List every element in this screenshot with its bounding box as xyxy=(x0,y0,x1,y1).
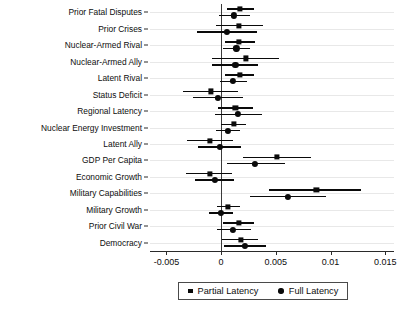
point-estimate-marker xyxy=(211,177,217,183)
y-axis-tick-label: GDP Per Capita xyxy=(82,156,142,165)
point-estimate-marker xyxy=(233,45,239,51)
point-estimate-marker xyxy=(236,39,241,44)
point-estimate-marker xyxy=(225,128,231,134)
legend-label: Partial Latency xyxy=(198,286,259,296)
y-axis-tick-label: Democracy xyxy=(100,238,142,247)
gridline xyxy=(150,111,394,112)
point-estimate-marker xyxy=(230,226,236,232)
gridline xyxy=(150,243,394,244)
x-axis-tick xyxy=(166,251,167,255)
legend-circle-marker-icon xyxy=(278,288,283,293)
y-axis-tick-label: Military Capabilities xyxy=(70,189,142,198)
y-axis-tick-label: Regional Latency xyxy=(77,107,142,116)
y-axis-tick xyxy=(144,160,148,161)
y-axis-tick-label: Status Deficit xyxy=(93,90,142,99)
x-axis-tick xyxy=(221,251,222,255)
y-axis-tick-label: Prior Fatal Disputes xyxy=(68,8,142,17)
legend-label: Full Latency xyxy=(289,286,339,296)
x-axis-tick-label: 0.01 xyxy=(322,257,340,267)
point-estimate-marker xyxy=(252,161,258,167)
point-estimate-marker xyxy=(217,144,223,150)
point-estimate-marker xyxy=(274,155,279,160)
x-axis: -0.00500.0050.010.015 xyxy=(150,251,394,273)
y-axis-tick xyxy=(144,111,148,112)
point-estimate-marker xyxy=(218,210,224,216)
gridline xyxy=(150,210,394,211)
y-axis-tick xyxy=(144,127,148,128)
y-axis-tick-label: Prior Civil War xyxy=(89,222,142,231)
legend-square-marker-icon xyxy=(188,289,193,294)
point-estimate-marker xyxy=(230,78,236,84)
plot-area xyxy=(150,4,394,251)
gridline xyxy=(150,177,394,178)
gridline xyxy=(150,78,394,79)
point-estimate-marker xyxy=(215,95,221,101)
point-estimate-marker xyxy=(223,29,229,35)
y-axis-tick xyxy=(144,193,148,194)
y-axis-tick-label: Nuclear Energy Investment xyxy=(41,123,142,132)
y-axis-tick xyxy=(144,209,148,210)
gridline xyxy=(150,62,394,63)
y-axis-tick xyxy=(144,94,148,95)
gridline xyxy=(150,160,394,161)
gridline xyxy=(150,144,394,145)
point-estimate-marker xyxy=(237,6,242,11)
y-axis-tick xyxy=(144,45,148,46)
x-axis-tick xyxy=(385,251,386,255)
point-estimate-marker xyxy=(244,56,249,61)
y-axis-tick xyxy=(144,12,148,13)
point-estimate-marker xyxy=(232,62,238,68)
point-estimate-marker xyxy=(285,193,291,199)
y-axis-tick xyxy=(144,226,148,227)
x-axis-tick-label: 0.005 xyxy=(265,257,288,267)
gridline xyxy=(150,128,394,129)
point-estimate-marker xyxy=(234,111,240,117)
gridline xyxy=(150,226,394,227)
gridline xyxy=(150,12,394,13)
point-estimate-marker xyxy=(238,237,243,242)
point-estimate-marker xyxy=(232,122,237,127)
y-axis-tick xyxy=(144,242,148,243)
x-axis-tick xyxy=(331,251,332,255)
point-estimate-marker xyxy=(242,243,248,249)
y-axis-tick-label: Prior Crises xyxy=(98,24,142,33)
x-axis-tick xyxy=(276,251,277,255)
y-axis-tick xyxy=(144,78,148,79)
legend-entry: Full Latency xyxy=(278,286,338,296)
point-estimate-marker xyxy=(208,171,213,176)
gridline xyxy=(150,193,394,194)
gridline xyxy=(150,29,394,30)
y-axis-tick-label: Latent Ally xyxy=(103,139,142,148)
point-estimate-marker xyxy=(225,204,230,209)
x-axis-tick-label: 0.015 xyxy=(374,257,397,267)
y-axis-tick-label: Economic Growth xyxy=(76,172,142,181)
y-axis-labels: Prior Fatal DisputesPrior CrisesNuclear-… xyxy=(0,0,150,251)
x-axis-tick-label: 0 xyxy=(219,257,224,267)
y-axis-tick xyxy=(144,28,148,29)
y-axis-tick xyxy=(144,61,148,62)
point-estimate-marker xyxy=(237,72,242,77)
gridline xyxy=(150,45,394,46)
gridline xyxy=(150,95,394,96)
point-estimate-marker xyxy=(233,105,238,110)
y-axis-tick xyxy=(144,176,148,177)
y-axis-tick-label: Nuclear-Armed Ally xyxy=(70,57,142,66)
point-estimate-marker xyxy=(314,188,319,193)
x-axis-tick-label: -0.005 xyxy=(154,257,180,267)
y-axis-tick xyxy=(144,143,148,144)
x-axis-line xyxy=(150,251,394,252)
point-estimate-marker xyxy=(236,221,241,226)
point-estimate-marker xyxy=(231,12,237,18)
coefficient-plot: Prior Fatal DisputesPrior CrisesNuclear-… xyxy=(0,0,414,309)
point-estimate-marker xyxy=(236,23,241,28)
legend-entry: Partial Latency xyxy=(188,286,258,296)
y-axis-tick-label: Military Growth xyxy=(86,205,142,214)
chart-legend: Partial LatencyFull Latency xyxy=(178,282,348,300)
y-axis-tick-label: Latent Rival xyxy=(98,74,142,83)
point-estimate-marker xyxy=(208,138,213,143)
y-axis-tick-label: Nuclear-Armed Rival xyxy=(65,41,142,50)
point-estimate-marker xyxy=(209,89,214,94)
